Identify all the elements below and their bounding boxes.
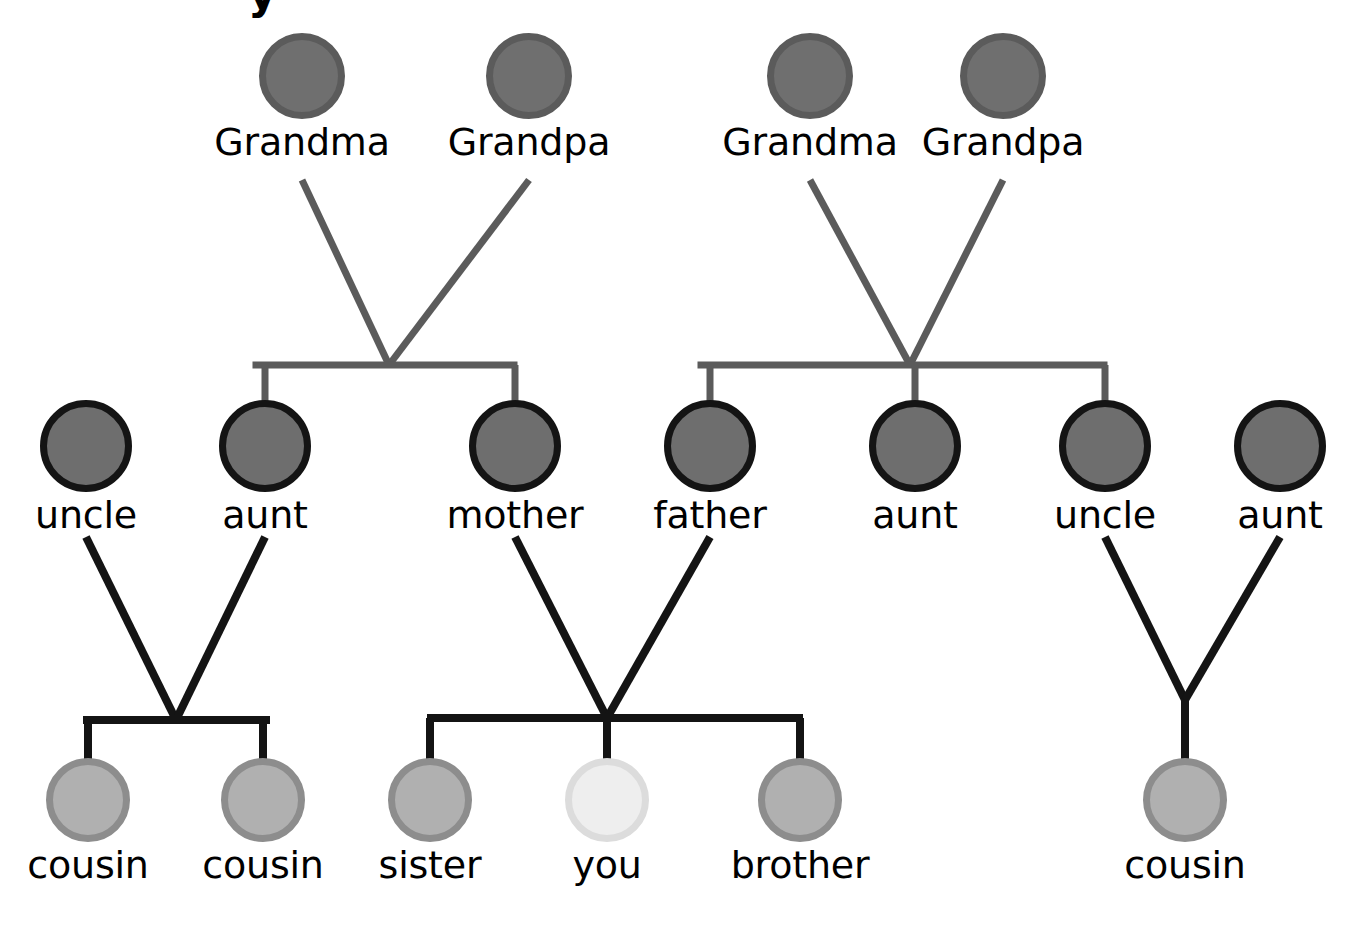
person-circle-icon — [46, 758, 130, 842]
family-member-label: Grandma — [722, 123, 897, 161]
family-member-g4[interactable]: Grandpa — [893, 33, 1113, 161]
person-circle-icon — [219, 400, 311, 492]
family-member-c5[interactable]: brother — [690, 758, 910, 884]
family-member-label: mother — [446, 496, 583, 534]
family-member-label: father — [653, 496, 766, 534]
person-circle-icon — [664, 400, 756, 492]
person-circle-icon — [40, 400, 132, 492]
union-leg-uncle-aunt-right-0 — [1105, 537, 1185, 700]
family-member-label: cousin — [202, 846, 323, 884]
family-member-label: uncle — [1054, 496, 1156, 534]
person-circle-icon — [960, 33, 1046, 119]
person-circle-icon — [221, 758, 305, 842]
person-circle-icon — [1143, 758, 1227, 842]
family-member-g1[interactable]: Grandma — [192, 33, 412, 161]
union-leg-uncle-aunt-left-0 — [86, 537, 176, 720]
family-member-c4[interactable]: you — [497, 758, 717, 884]
union-leg-mother-father-0 — [515, 537, 607, 718]
family-member-label: aunt — [222, 496, 308, 534]
family-member-g3[interactable]: Grandma — [700, 33, 920, 161]
family-tree-diagram: y GrandmaGrandpaGrandmaGrandpauncleauntm… — [0, 0, 1369, 931]
person-circle-icon — [565, 758, 649, 842]
union-leg-maternal-grandparents-1 — [389, 180, 529, 365]
union-leg-paternal-grandparents-1 — [910, 180, 1003, 365]
family-member-label: cousin — [27, 846, 148, 884]
family-member-label: you — [572, 846, 641, 884]
union-leg-uncle-aunt-left-1 — [176, 537, 265, 720]
family-member-p5[interactable]: aunt — [805, 400, 1025, 534]
person-circle-icon — [1234, 400, 1326, 492]
person-circle-icon — [758, 758, 842, 842]
person-circle-icon — [388, 758, 472, 842]
family-member-p2[interactable]: aunt — [155, 400, 375, 534]
person-circle-icon — [469, 400, 561, 492]
union-leg-mother-father-1 — [607, 537, 710, 718]
family-member-p7[interactable]: aunt — [1170, 400, 1369, 534]
family-member-label: aunt — [1237, 496, 1323, 534]
family-member-p3[interactable]: mother — [405, 400, 625, 534]
family-member-c6[interactable]: cousin — [1075, 758, 1295, 884]
person-circle-icon — [259, 33, 345, 119]
union-leg-uncle-aunt-right-1 — [1185, 537, 1280, 700]
union-leg-maternal-grandparents-0 — [302, 180, 389, 365]
person-circle-icon — [486, 33, 572, 119]
family-member-label: Grandpa — [448, 123, 611, 161]
family-member-label: Grandpa — [922, 123, 1085, 161]
family-member-label: sister — [379, 846, 482, 884]
family-member-label: brother — [731, 846, 870, 884]
family-member-label: aunt — [872, 496, 958, 534]
family-member-p4[interactable]: father — [600, 400, 820, 534]
person-circle-icon — [869, 400, 961, 492]
person-circle-icon — [1059, 400, 1151, 492]
family-member-label: Grandma — [214, 123, 389, 161]
family-member-label: cousin — [1124, 846, 1245, 884]
family-member-g2[interactable]: Grandpa — [419, 33, 639, 161]
union-leg-paternal-grandparents-0 — [810, 180, 910, 365]
person-circle-icon — [767, 33, 853, 119]
family-member-label: uncle — [35, 496, 137, 534]
